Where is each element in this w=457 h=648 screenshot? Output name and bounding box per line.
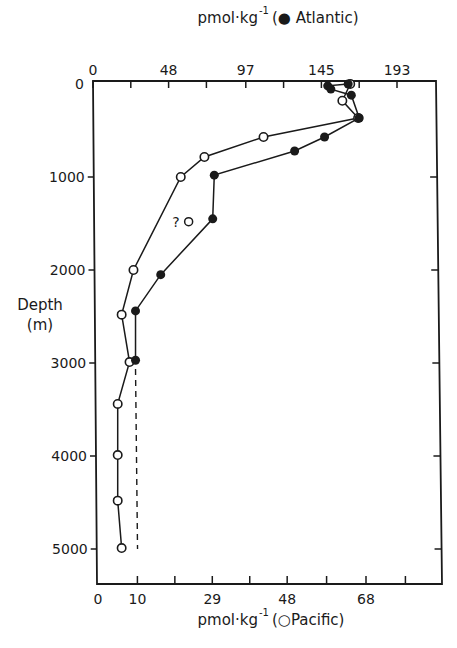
- bottom-axis-tick-label: 29: [203, 591, 221, 607]
- atlantic-filled-marker: [131, 356, 140, 365]
- pacific-open-marker: [259, 133, 267, 141]
- top-axis-title: pmol·kg: [198, 9, 258, 27]
- pacific-open-marker: [114, 451, 122, 459]
- top-axis-tick-label: 48: [160, 62, 178, 78]
- top-axis-atlantic: 04897145193: [89, 62, 411, 88]
- atlantic-filled-marker: [320, 133, 329, 142]
- y-axis-title: Depth: [17, 296, 63, 314]
- bottom-axis-tick-label: 68: [357, 591, 375, 607]
- question-mark-label: ?: [172, 214, 179, 230]
- y-axis-unit: (m): [27, 316, 53, 334]
- top-axis-tick-label: 145: [308, 62, 335, 78]
- bottom-axis-tick-label: 0: [94, 591, 103, 607]
- pacific-open-marker: [114, 400, 122, 408]
- atlantic-line: [136, 84, 360, 360]
- annotations: ?: [172, 214, 192, 230]
- atlantic-filled-marker: [347, 91, 356, 100]
- pacific-open-marker: [177, 173, 185, 181]
- atlantic-filled-marker: [131, 306, 140, 315]
- depth-profile-chart: 04897145193 010294868 010002000300040005…: [0, 0, 457, 648]
- depth-axis-tick-label: 2000: [50, 262, 86, 278]
- pacific-open-marker: [117, 310, 125, 318]
- top-axis-tick-label: 0: [89, 62, 98, 78]
- bottom-axis-tick-label: 48: [278, 591, 296, 607]
- top-axis-tick-label: 193: [384, 62, 411, 78]
- pacific-open-marker: [200, 153, 208, 161]
- atlantic-filled-marker: [210, 171, 219, 180]
- plot-frame: [93, 81, 442, 584]
- pacific-open-marker: [114, 496, 122, 504]
- depth-axis-tick-label: 4000: [51, 448, 87, 464]
- depth-axis: 010002000300040005000: [49, 76, 97, 557]
- pacific-open-marker: [129, 266, 137, 274]
- atlantic-filled-marker: [208, 214, 217, 223]
- top-axis-title-series: (● Atlantic): [272, 9, 359, 27]
- bottom-axis-title-series: (○Pacific): [272, 611, 344, 629]
- pacific-open-marker: [338, 97, 346, 105]
- bottom-axis-tick-label: 10: [128, 591, 146, 607]
- atlantic-filled-marker: [344, 80, 353, 89]
- atlantic-extrapolation-dashed-line: [136, 369, 138, 549]
- bottom-axis-title-exponent: -1: [259, 607, 269, 618]
- atlantic-filled-marker: [156, 270, 165, 279]
- dashed-extrapolation-line: [136, 369, 138, 549]
- top-axis-tick-label: 97: [237, 62, 255, 78]
- pacific-series: [114, 80, 363, 552]
- depth-axis-tick-label: 0: [75, 76, 84, 92]
- atlantic-filled-marker: [326, 85, 335, 94]
- depth-axis-tick-label: 1000: [49, 169, 85, 185]
- top-axis-title-exponent: -1: [259, 5, 269, 16]
- atlantic-filled-marker: [355, 113, 364, 122]
- pacific-line: [118, 84, 358, 548]
- depth-axis-tick-label: 3000: [51, 355, 87, 371]
- atlantic-filled-marker: [290, 146, 299, 155]
- plot-border: [93, 81, 442, 584]
- pacific-open-marker: [117, 544, 125, 552]
- atlantic-series: [131, 80, 364, 365]
- depth-axis-tick-label: 5000: [52, 541, 88, 557]
- bottom-axis-title: pmol·kg: [198, 611, 258, 629]
- questionable-pacific-marker: [185, 218, 193, 226]
- bottom-axis-pacific: 010294868: [94, 576, 406, 607]
